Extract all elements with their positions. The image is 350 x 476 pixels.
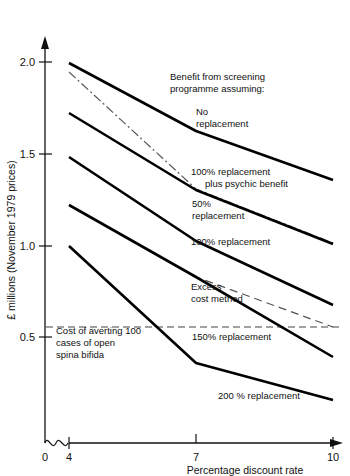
axis-break-squiggle xyxy=(45,440,68,445)
y-axis-arrow xyxy=(41,36,49,49)
x-axis-arrow xyxy=(330,439,343,447)
chart-figure: 2.0 1.5 1.0 0.5 0 4 7 10 Percentage disc… xyxy=(0,0,350,476)
annotation-refline-line3: spina bifida xyxy=(56,349,105,360)
x-tick-labels: 0 4 7 10 xyxy=(42,451,339,463)
annotation-no-replacement-line2: replacement xyxy=(196,118,249,129)
axis-y xyxy=(39,36,52,430)
x-tick-label-10: 10 xyxy=(327,451,339,463)
y-tick-label-0.5: 0.5 xyxy=(20,331,35,343)
chart-canvas: 2.0 1.5 1.0 0.5 0 4 7 10 Percentage disc… xyxy=(0,0,350,476)
annotation-refline-line2: cases of open xyxy=(56,337,115,348)
annotation-psychic-line2: plus psychic benefit xyxy=(205,178,288,189)
annotation-excess-line2: cost method xyxy=(191,293,243,304)
y-tick-label-1.5: 1.5 xyxy=(20,148,35,160)
y-axis-title: £ millions (November 1979 prices) xyxy=(5,160,17,319)
annotation-note-heading-2: programme assuming: xyxy=(170,83,265,94)
annotation-no-replacement-line1: No xyxy=(196,106,208,117)
annotation-50-line1: 50% xyxy=(192,198,212,209)
annotation-100-replacement: 100% replacement xyxy=(191,236,271,247)
annotation-50-line2: replacement xyxy=(192,210,245,221)
x-tick-label-7: 7 xyxy=(193,451,199,463)
x-axis-title: Percentage discount rate xyxy=(187,464,304,476)
series-200-replacement xyxy=(69,246,333,400)
y-tick-label-2.0: 2.0 xyxy=(20,56,35,68)
y-tick-label-1.0: 1.0 xyxy=(20,240,35,252)
annotation-150-replacement: 150% replacement xyxy=(192,331,272,342)
x-tick-label-0: 0 xyxy=(42,451,48,463)
annotation-refline-line1: Cost of averting 100 xyxy=(56,325,141,336)
annotation-psychic-line1: 100% replacement xyxy=(191,166,271,177)
axis-x xyxy=(45,430,343,449)
annotation-excess-line1: Excess xyxy=(191,281,222,292)
y-tick-labels: 2.0 1.5 1.0 0.5 xyxy=(20,56,35,343)
annotation-note-heading-1: Benefit from screening xyxy=(170,71,265,82)
annotation-200-replacement: 200 % replacement xyxy=(218,390,300,401)
x-tick-label-4: 4 xyxy=(66,451,72,463)
series-excess-cost-method xyxy=(69,205,333,327)
